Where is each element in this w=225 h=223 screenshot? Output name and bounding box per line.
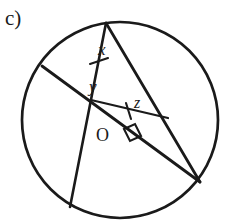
centre-label-o: O bbox=[96, 126, 109, 144]
tick-mark-z-icon bbox=[126, 103, 131, 119]
part-label: c) bbox=[5, 8, 21, 29]
geometry-figure: c) x y z O bbox=[0, 0, 225, 223]
circle-outline bbox=[22, 22, 218, 218]
angle-label-y: y bbox=[89, 78, 97, 95]
angle-label-x: x bbox=[98, 41, 106, 58]
angle-label-z: z bbox=[134, 95, 140, 111]
chord-left-to-right bbox=[42, 66, 200, 182]
geometry-drawing bbox=[0, 0, 225, 223]
